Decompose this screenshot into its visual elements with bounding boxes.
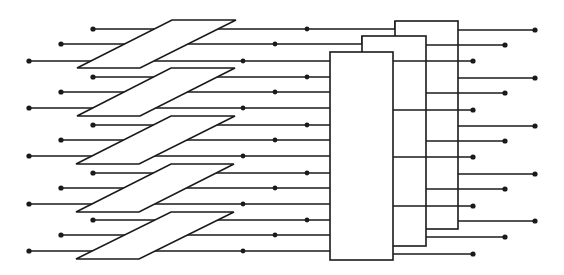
- input-wire: [93, 21, 395, 29]
- output-terminal-dot: [502, 234, 507, 239]
- box-1: [330, 52, 393, 260]
- input-terminal-dot: [26, 248, 31, 253]
- output-terminal-dot: [502, 42, 507, 47]
- output-terminal-dot: [470, 251, 475, 256]
- input-terminal-dot: [26, 201, 31, 206]
- output-terminal-dot: [532, 171, 537, 176]
- junction-dot: [305, 171, 310, 176]
- output-terminal-dot: [502, 138, 507, 143]
- junction-dot: [241, 202, 246, 207]
- junction-dot: [305, 218, 310, 223]
- output-terminal-dot: [502, 90, 507, 95]
- junction-dot: [273, 138, 278, 143]
- output-terminal-dot: [532, 218, 537, 223]
- output-terminal-dot: [532, 123, 537, 128]
- junction-dot: [241, 106, 246, 111]
- junction-dot: [241, 154, 246, 159]
- input-wire: [61, 36, 362, 44]
- output-terminal-dot: [502, 186, 507, 191]
- junction-dot: [273, 186, 278, 191]
- output-terminal-dot: [470, 107, 475, 112]
- output-terminal-dot: [470, 58, 475, 63]
- output-terminal-dot: [532, 75, 537, 80]
- output-terminal-dot: [470, 154, 475, 159]
- input-terminal-dot: [58, 232, 63, 237]
- input-terminal-dot: [90, 26, 95, 31]
- junction-dot: [273, 233, 278, 238]
- output-terminal-dot: [470, 203, 475, 208]
- input-terminal-dot: [90, 217, 95, 222]
- input-terminal-dot: [26, 58, 31, 63]
- input-terminal-dot: [58, 41, 63, 46]
- input-terminal-dot: [90, 122, 95, 127]
- output-terminal-dot: [532, 27, 537, 32]
- input-terminal-dot: [58, 137, 63, 142]
- junction-dot: [305, 75, 310, 80]
- input-terminal-dot: [26, 105, 31, 110]
- input-terminal-dot: [26, 153, 31, 158]
- junction-dot: [305, 27, 310, 32]
- input-terminal-dot: [90, 74, 95, 79]
- input-terminal-dot: [58, 185, 63, 190]
- junction-dot: [241, 59, 246, 64]
- junction-dot: [305, 123, 310, 128]
- junction-dot: [273, 90, 278, 95]
- input-terminal-dot: [90, 170, 95, 175]
- junction-dot: [273, 42, 278, 47]
- junction-dot: [241, 249, 246, 254]
- layered-network-diagram: [0, 0, 564, 275]
- input-terminal-dot: [58, 89, 63, 94]
